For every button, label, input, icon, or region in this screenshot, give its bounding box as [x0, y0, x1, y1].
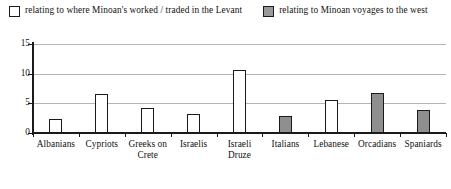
x-axis-label-greeks-on-crete: Greeks onCrete — [125, 139, 171, 160]
x-axis-line — [32, 132, 446, 134]
legend-label-west: relating to Minoan voyages to the west — [279, 6, 427, 15]
y-axis-line — [32, 42, 34, 135]
x-axis-label-italians: Italians — [262, 139, 308, 150]
legend-swatch-filled-icon — [263, 6, 274, 17]
bar-albanians — [49, 119, 62, 133]
legend-entry-west: relating to Minoan voyages to the west — [263, 6, 427, 17]
x-tick-6 — [308, 133, 309, 137]
bar-orcadians — [371, 93, 384, 133]
x-axis-label-israelis: Israelis — [171, 139, 217, 150]
x-axis-label-israeli-druze: IsraeliDruze — [217, 139, 263, 160]
bar-chart: 051015 AlbaniansCypriotsGreeks onCreteIs… — [0, 22, 451, 189]
y-tick-label-15: 15 — [4, 39, 30, 48]
y-axis-tick-labels: 051015 — [0, 22, 30, 189]
x-axis-label-cypriots: Cypriots — [79, 139, 125, 150]
bar-cypriots — [95, 94, 108, 133]
y-tick-mark-15 — [28, 44, 32, 45]
gridline-15 — [33, 44, 446, 45]
bar-lebanese — [325, 100, 338, 133]
plot-area — [33, 44, 446, 133]
x-tick-end — [446, 133, 447, 137]
bar-greeks-on-crete — [141, 108, 154, 133]
y-tick-label-5: 5 — [4, 98, 30, 107]
x-tick-1 — [79, 133, 80, 137]
bar-israeli-druze — [233, 70, 246, 133]
y-tick-label-0: 0 — [4, 128, 30, 137]
x-tick-7 — [354, 133, 355, 137]
y-tick-mark-0 — [28, 133, 32, 134]
x-tick-5 — [262, 133, 263, 137]
legend-swatch-hollow-icon — [9, 6, 20, 17]
bar-italians — [279, 116, 292, 133]
x-tick-8 — [400, 133, 401, 137]
bar-israelis — [187, 114, 200, 133]
y-tick-mark-10 — [28, 74, 32, 75]
legend-label-levant: relating to where Minoan's worked / trad… — [25, 6, 242, 15]
chart-legend: relating to where Minoan's worked / trad… — [0, 0, 451, 22]
bar-spaniards — [417, 110, 430, 133]
x-axis-label-albanians: Albanians — [33, 139, 79, 150]
legend-entry-levant: relating to where Minoan's worked / trad… — [9, 6, 242, 17]
y-tick-label-10: 10 — [4, 69, 30, 78]
y-tick-mark-5 — [28, 103, 32, 104]
x-axis-label-orcadians: Orcadians — [354, 139, 400, 150]
x-axis-label-spaniards: Spaniards — [400, 139, 446, 150]
x-tick-0 — [33, 133, 34, 137]
x-tick-4 — [217, 133, 218, 137]
x-tick-2 — [125, 133, 126, 137]
x-tick-3 — [171, 133, 172, 137]
x-axis-label-lebanese: Lebanese — [308, 139, 354, 150]
